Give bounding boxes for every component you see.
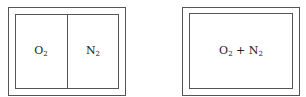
n2-label: N2	[86, 45, 100, 57]
o2-label: O2	[34, 45, 48, 57]
partition-wall	[67, 14, 68, 89]
mixture-label: O2 + N2	[219, 45, 263, 57]
